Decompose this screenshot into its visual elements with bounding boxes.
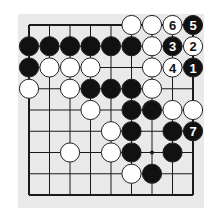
black-stone	[122, 143, 141, 162]
white-stone: 6	[163, 15, 182, 34]
black-stone	[19, 58, 38, 77]
white-stone: 4	[163, 58, 182, 77]
move-number-label: 6	[169, 18, 176, 33]
white-stone	[19, 79, 38, 98]
white-stone	[142, 37, 161, 56]
black-stone	[122, 79, 141, 98]
black-stone: 7	[183, 122, 202, 141]
white-stone	[183, 100, 202, 119]
white-stone	[101, 143, 120, 162]
white-stone	[122, 164, 141, 183]
black-stone	[163, 122, 182, 141]
black-stone	[122, 100, 141, 119]
move-number-label: 1	[189, 61, 196, 76]
black-stone	[81, 79, 100, 98]
white-stone	[60, 79, 79, 98]
black-stone	[142, 164, 161, 183]
go-board: 6532417	[0, 0, 219, 214]
move-number-label: 2	[189, 39, 196, 54]
black-stone	[122, 122, 141, 141]
white-stone	[142, 79, 161, 98]
white-stone	[81, 100, 100, 119]
move-number-label: 5	[189, 18, 196, 33]
white-stone	[122, 15, 141, 34]
star-point	[150, 151, 154, 155]
white-stone	[40, 58, 59, 77]
black-stone	[60, 37, 79, 56]
black-stone	[40, 37, 59, 56]
black-stone	[101, 79, 120, 98]
white-stone	[101, 122, 120, 141]
black-stone	[19, 37, 38, 56]
white-stone	[142, 15, 161, 34]
black-stone	[163, 143, 182, 162]
move-number-label: 3	[169, 39, 176, 54]
white-stone	[142, 58, 161, 77]
white-stone	[60, 143, 79, 162]
move-number-label: 7	[189, 124, 196, 139]
black-stone: 1	[183, 58, 202, 77]
black-stone: 5	[183, 15, 202, 34]
white-stone	[163, 100, 182, 119]
white-stone: 2	[183, 37, 202, 56]
black-stone	[81, 37, 100, 56]
star-points	[150, 151, 154, 155]
black-stone	[122, 37, 141, 56]
move-number-label: 4	[169, 61, 177, 76]
black-stone	[101, 37, 120, 56]
black-stone: 3	[163, 37, 182, 56]
white-stone	[81, 58, 100, 77]
black-stone	[142, 100, 161, 119]
white-stone	[60, 58, 79, 77]
